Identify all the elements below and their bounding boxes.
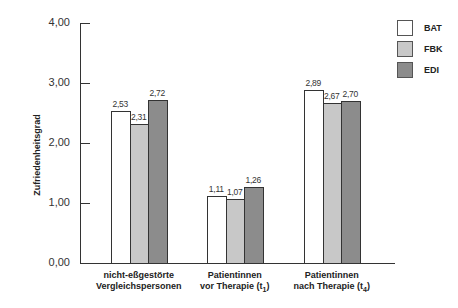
y-tick: [80, 143, 90, 144]
bar-fbk: [130, 124, 150, 264]
bar-chart: Zufriedenheitsgrad 0,001,002,003,004,00 …: [0, 0, 458, 308]
legend-swatch: [397, 41, 413, 57]
bar-bat: [111, 111, 131, 264]
bar-value-label: 2,72: [144, 88, 170, 98]
y-tick-label: 0,00: [30, 256, 70, 268]
legend-item-edi: EDI: [397, 62, 439, 78]
y-tick-label: 2,00: [30, 136, 70, 148]
bar-value-label: 2,89: [300, 78, 326, 88]
y-axis-label: Zufriedenheitsgrad: [32, 105, 42, 205]
bar-value-label: 2,53: [107, 99, 133, 109]
y-tick-label: 4,00: [30, 16, 70, 28]
y-tick: [80, 203, 90, 204]
bar-edi: [341, 101, 361, 264]
y-tick-label: 1,00: [30, 196, 70, 208]
legend-label: BAT: [424, 23, 442, 33]
legend-item-fbk: FBK: [397, 41, 443, 57]
bar-fbk: [323, 103, 343, 264]
legend-item-bat: BAT: [397, 20, 442, 36]
bar-edi: [244, 187, 264, 264]
legend-swatch: [397, 20, 413, 36]
bar-bat: [304, 90, 324, 264]
legend-swatch: [397, 62, 413, 78]
y-tick: [80, 83, 90, 84]
legend-label: EDI: [424, 65, 439, 75]
legend-label: FBK: [424, 44, 443, 54]
bar-value-label: 1,26: [240, 175, 266, 185]
y-tick-label: 3,00: [30, 76, 70, 88]
bar-edi: [148, 100, 168, 264]
bar-bat: [207, 196, 227, 264]
bar-value-label: 2,70: [337, 89, 363, 99]
category-label: Patientinnennach Therapie (t4): [272, 270, 392, 295]
bar-fbk: [226, 199, 246, 264]
y-tick: [80, 23, 90, 24]
